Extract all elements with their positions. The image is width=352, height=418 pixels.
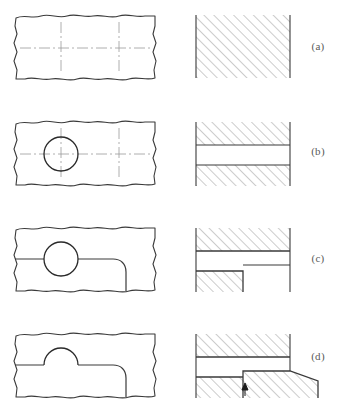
hatched-region-upper-b [196, 122, 290, 145]
plan-view-b [14, 121, 156, 186]
plan-view-a [14, 15, 156, 80]
hatched-region-lower-left-c [196, 271, 243, 292]
row-label-a: (a) [311, 40, 324, 53]
plan-view-c [14, 227, 156, 292]
section-view-a [196, 15, 290, 78]
row-label-d: (d) [311, 350, 325, 363]
hatched-region-upper-d [196, 334, 290, 357]
hatched-region-a [196, 15, 290, 78]
break-line-outline-b [14, 121, 156, 186]
row-label-b: (b) [311, 145, 325, 158]
plan-view-d [14, 333, 156, 398]
break-line-outline-a [14, 15, 156, 80]
technical-drawing-figure: (a) (b) [0, 0, 352, 418]
hatched-region-upper-c [196, 228, 290, 251]
row-label-c: (c) [311, 252, 324, 265]
hatched-region-lower-left-d [196, 377, 243, 398]
hatched-region-lower-b [196, 165, 290, 186]
figure-container: (a) (b) [0, 0, 352, 418]
